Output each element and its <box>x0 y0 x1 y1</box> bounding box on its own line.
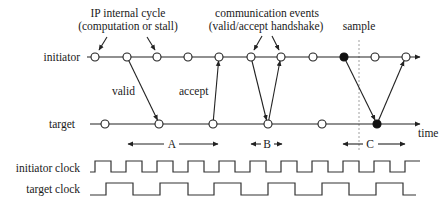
initiator-event-node <box>215 53 223 61</box>
valid-label: valid <box>112 85 135 97</box>
initiator-row-label: initiator <box>44 51 81 63</box>
accept-arrow-b <box>268 61 280 124</box>
target-row-label: target <box>49 118 76 131</box>
interval-c-label: C <box>366 138 374 150</box>
comm-events-annotation-line2: (valid/accept handshake) <box>209 20 324 33</box>
target-clock-label: target clock <box>26 183 80 196</box>
valid-arrow-b <box>251 57 267 120</box>
initiator-event-node <box>91 53 99 61</box>
interval-c: C <box>343 138 405 150</box>
target-event-node <box>264 120 272 128</box>
timing-diagram: IP internal cycle (computation or stall)… <box>0 0 445 207</box>
interval-a: A <box>128 138 218 150</box>
target-event-node <box>155 120 163 128</box>
initiator-event-node <box>247 53 255 61</box>
comm-events-pointer-arrow-right <box>272 36 279 50</box>
accept-arrow-c <box>377 61 404 124</box>
initiator-sample-node <box>340 53 348 61</box>
initiator-event-node <box>123 53 131 61</box>
interval-a-label: A <box>168 138 177 150</box>
interval-b-label: B <box>263 138 271 150</box>
comm-events-annotation-line1: communication events <box>215 7 319 19</box>
ip-cycle-annotation-line1: IP internal cycle <box>91 7 166 20</box>
ip-cycle-annotation-line2: (computation or stall) <box>78 20 178 33</box>
ip-cycle-pointer-arrow-right <box>147 37 155 50</box>
target-event-node <box>318 120 326 128</box>
time-axis-label: time <box>418 127 438 139</box>
interval-b: B <box>251 138 282 150</box>
accept-arrow <box>213 61 219 124</box>
valid-arrow-c <box>344 57 375 120</box>
target-event-node <box>209 120 217 128</box>
target-sample-node <box>373 120 381 128</box>
initiator-event-node <box>184 53 192 61</box>
comm-events-pointer-arrow-left <box>254 36 262 50</box>
initiator-event-node <box>309 53 317 61</box>
initiator-event-node <box>277 53 285 61</box>
target-event-node <box>101 120 109 128</box>
target-clock-waveform <box>90 183 416 195</box>
accept-label: accept <box>179 85 209 98</box>
sample-annotation: sample <box>343 20 376 33</box>
initiator-event-node <box>371 53 379 61</box>
initiator-clock-label: initiator clock <box>16 162 80 174</box>
ip-cycle-pointer-arrow-left <box>99 37 107 50</box>
initiator-event-node <box>153 53 161 61</box>
initiator-event-node <box>402 53 410 61</box>
initiator-clock-waveform <box>90 161 420 172</box>
